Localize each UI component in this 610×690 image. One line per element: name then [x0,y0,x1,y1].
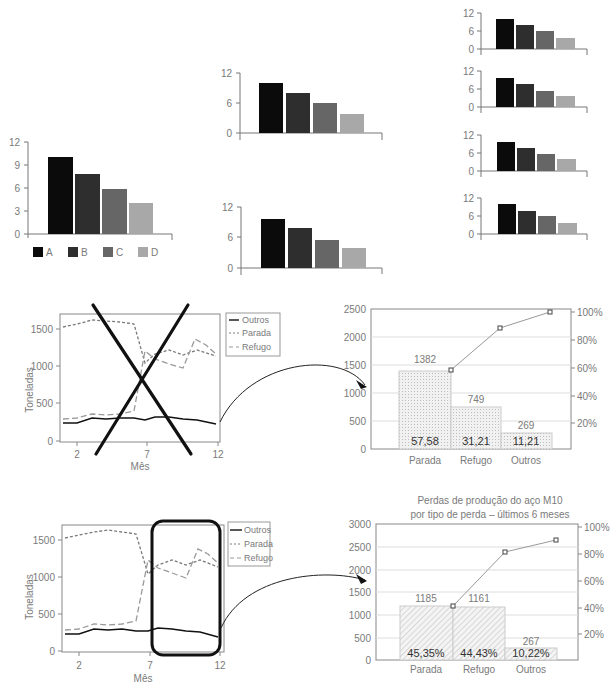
pareto-chart-2: Perdas de produção do aço M10 por tipo d… [340,490,610,690]
y-tick: 3 [14,206,20,217]
bar-value: 269 [518,420,535,431]
y-tick: 0 [468,229,474,240]
x-tick: 7 [144,449,150,460]
y2-tick: 80% [584,549,604,560]
bar-c [536,31,554,49]
series-parada [63,320,216,363]
bar-a [261,219,285,268]
bar-d [556,96,575,107]
series-outros [63,417,216,424]
bar-chart-right-1: 12 6 0 [460,5,610,65]
bar-chart-mid-top: 12 6 0 [210,60,400,150]
y-tick: 3000 [349,519,372,530]
legend-swatch-b [68,247,78,257]
bar-c [315,240,339,268]
bar-value: 749 [468,394,485,405]
bar-c [102,189,127,234]
y-tick: 1500 [344,360,367,371]
y2-tick: 40% [577,391,597,402]
y-tick: 500 [349,416,366,427]
y-tick: 500 [354,633,371,644]
y-tick: 1500 [33,535,56,546]
y-tick: 6 [226,98,232,109]
y2-tick: 80% [577,335,597,346]
y2-tick: 100% [577,307,603,318]
y-tick: 6 [468,148,474,159]
bar-chart-main: 12 9 6 3 0 A B C D [0,120,200,270]
legend-swatch-d [138,247,148,257]
category-label: Outros [516,664,546,675]
y-tick: 0 [226,128,232,139]
y-tick: 6 [14,183,20,194]
y-tick: 0 [468,44,474,55]
bar-d [129,203,153,234]
bar-value: 1382 [414,354,437,365]
bar-value: 267 [523,636,540,647]
y-tick: 12 [222,202,234,213]
bar-chart-right-3: 12 6 0 [460,127,610,187]
legend-label: D [151,247,158,258]
bar-b [516,84,534,107]
category-label: Parada [409,455,442,466]
series-outros [65,628,218,637]
bar-pct: 11,21 [513,435,540,447]
y2-tick: 20% [584,629,604,640]
y-tick: 0 [360,444,366,455]
bar-chart-right-2: 12 6 0 [460,63,610,123]
category-label: Parada [410,664,443,675]
y-tick: 2000 [344,332,367,343]
legend-label: A [46,247,53,258]
x-tick: 12 [212,449,224,460]
bar-d [556,38,575,49]
bar-d [340,114,364,133]
y-tick: 0 [49,646,55,657]
legend-label: B [81,247,88,258]
bar-a [497,142,515,171]
y-tick: 1000 [344,388,367,399]
y-tick: 6 [468,211,474,222]
bar-pct: 57,58 [411,435,439,447]
y-tick: 12 [463,66,475,77]
bar-a [496,19,514,49]
y-tick: 6 [468,26,474,37]
bar-b [518,211,536,234]
bar-c [536,91,554,107]
bar-b [516,25,534,49]
legend-label: Outros [244,525,272,535]
y-tick: 0 [468,166,474,177]
pareto-chart-1: 2500 2000 1500 1000 500 0 100% 80% 60% 4… [330,295,610,475]
y-tick: 500 [36,398,53,409]
y-tick: 12 [463,8,475,19]
legend-label: Outros [242,315,270,325]
y-tick: 1500 [349,587,372,598]
y-tick: 6 [227,232,233,243]
y-axis-label: Toneladas [24,574,35,620]
cross-out-mark [93,305,191,454]
x-tick: 2 [76,660,82,671]
y2-tick: 60% [584,576,604,587]
bar-a [259,83,283,133]
y-tick: 12 [463,130,475,141]
bar-c [537,154,555,171]
legend-swatch-a [33,247,43,257]
y-tick: 2000 [349,565,372,576]
y-tick: 1500 [31,324,54,335]
bar-pct: 10,22% [512,647,550,659]
x-tick: 12 [214,660,226,671]
y2-tick: 40% [584,603,604,614]
bar-a [498,204,516,234]
bar-chart-mid-bottom: 12 6 0 [210,195,400,285]
x-axis-label: Mês [131,461,150,472]
x-tick: 2 [74,449,80,460]
x-tick: 7 [147,660,153,671]
y-tick: 2500 [344,304,367,315]
y-tick: 12 [221,68,233,79]
bar-c [538,216,556,234]
bar-chart-right-4: 12 6 0 [460,190,610,250]
bar-b [517,148,535,171]
bar-pct: 31,21 [462,435,490,447]
chart-title-line-1: Perdas de produção do aço M10 [417,495,563,506]
y-tick: 12 [463,193,475,204]
category-label: Outros [511,455,541,466]
bar-c [313,103,337,133]
